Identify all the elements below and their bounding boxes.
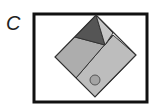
figure — [0, 0, 150, 109]
circle — [90, 75, 100, 85]
